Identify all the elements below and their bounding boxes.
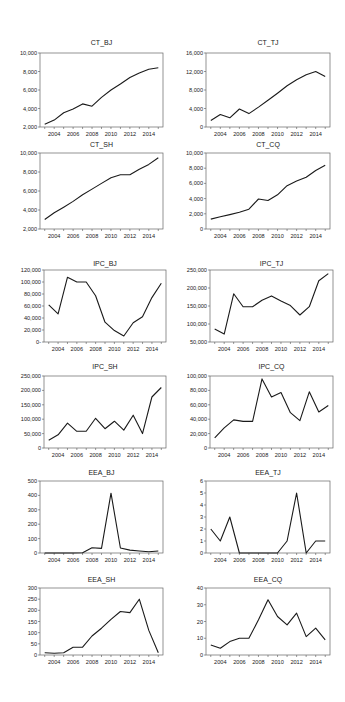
y-tick-label: 100,000	[21, 279, 41, 285]
x-tick-label: 2010	[105, 557, 117, 563]
x-tick-label: 2008	[89, 452, 101, 458]
y-tick-label: 8,000	[189, 87, 203, 93]
x-tick-label: 2014	[309, 233, 321, 239]
x-tick-label: 2004	[48, 131, 60, 137]
x-tick-label: 2010	[271, 233, 283, 239]
series-line-eea-bj	[45, 493, 159, 553]
x-tick-label: 2004	[218, 346, 230, 352]
y-tick-label: 6,000	[189, 180, 203, 186]
chart-grid: CT_BJ2,0004,0006,0008,00010,000200420062…	[0, 0, 345, 702]
x-tick-label: 2006	[233, 131, 245, 137]
plot-frame	[210, 270, 333, 342]
x-tick-label: 2008	[256, 346, 268, 352]
series-line-ct-cq	[211, 165, 325, 219]
chart-ct-tj: CT_TJ04,0008,00012,00016,000200420062008…	[186, 39, 330, 137]
chart-title: EEA_CQ	[254, 576, 283, 584]
y-tick-label: 2,000	[23, 124, 37, 130]
y-tick-label: 2,000	[23, 226, 37, 232]
y-tick-label: 100	[28, 536, 37, 542]
y-tick-label: 20,000	[190, 431, 207, 437]
x-tick-label: 2014	[313, 346, 325, 352]
chart-eea-tj: EEA_TJ0123456200420062008201020122014	[200, 469, 330, 563]
x-tick-label: 2008	[252, 131, 264, 137]
x-tick-label: 2006	[67, 233, 79, 239]
x-tick-label: 2010	[108, 452, 120, 458]
x-tick-label: 2004	[214, 131, 226, 137]
y-tick-label: 20	[197, 619, 203, 625]
x-tick-label: 2012	[127, 346, 139, 352]
series-line-ct-bj	[45, 68, 159, 124]
y-tick-label: 100,000	[21, 416, 41, 422]
y-tick-label: 200	[28, 607, 37, 613]
y-tick-label: 250	[28, 596, 37, 602]
x-tick-label: 2010	[105, 233, 117, 239]
x-tick-label: 2006	[67, 557, 79, 563]
x-tick-label: 2010	[271, 557, 283, 563]
y-tick-label: 0	[200, 652, 203, 658]
x-tick-label: 2010	[105, 131, 117, 137]
chart-ct-bj: CT_BJ2,0004,0006,0008,00010,000200420062…	[20, 39, 163, 137]
y-tick-label: 8,000	[23, 69, 37, 75]
y-tick-label: 150,000	[187, 303, 207, 309]
chart-ct-cq: CT_CQ02,0004,0006,0008,00010,00020042006…	[186, 141, 330, 239]
x-tick-label: 2004	[48, 557, 60, 563]
y-tick-label: 60,000	[24, 303, 41, 309]
y-tick-label: 120,000	[21, 267, 41, 273]
y-tick-label: 250,000	[21, 373, 41, 379]
chart-ipc-sh: IPC_SH050,000100,000150,000200,000250,00…	[21, 363, 166, 458]
x-tick-label: 2006	[233, 557, 245, 563]
x-tick-label: 2014	[143, 659, 155, 665]
x-tick-label: 2010	[275, 346, 287, 352]
y-tick-label: 100	[28, 630, 37, 636]
x-tick-label: 2012	[124, 233, 136, 239]
y-tick-label: 200,000	[187, 285, 207, 291]
x-tick-label: 2006	[67, 659, 79, 665]
y-tick-label: 150,000	[21, 402, 41, 408]
plot-frame	[40, 588, 163, 655]
x-tick-label: 2014	[309, 131, 321, 137]
x-tick-label: 2006	[71, 452, 83, 458]
x-tick-label: 2010	[275, 452, 287, 458]
y-tick-label: 16,000	[186, 50, 203, 56]
y-tick-label: 80,000	[24, 291, 41, 297]
y-tick-label: 1	[200, 538, 203, 544]
x-tick-label: 2012	[124, 131, 136, 137]
y-tick-label: 0	[38, 445, 41, 451]
series-line-eea-sh	[45, 599, 159, 653]
y-tick-label: 10,000	[20, 50, 37, 56]
x-tick-label: 2004	[218, 452, 230, 458]
y-tick-label: 300	[28, 507, 37, 513]
x-tick-label: 2012	[124, 659, 136, 665]
x-tick-label: 2004	[52, 452, 64, 458]
x-tick-label: 2014	[313, 452, 325, 458]
x-tick-label: 2006	[71, 346, 83, 352]
x-tick-label: 2010	[108, 346, 120, 352]
x-tick-label: 2012	[294, 452, 306, 458]
y-tick-label: 40	[197, 585, 203, 591]
x-tick-label: 2004	[48, 233, 60, 239]
chart-ipc-bj: IPC_BJ0-20,00040,00060,00080,000100,0001…	[21, 260, 166, 352]
chart-eea-bj: EEA_BJ0100200300400500200420062008201020…	[28, 469, 163, 563]
y-tick-label: 4,000	[23, 106, 37, 112]
series-line-ipc-sh	[49, 388, 162, 441]
y-tick-label: 30	[197, 602, 203, 608]
x-tick-label: 2008	[252, 233, 264, 239]
y-tick-label: 20,000	[24, 327, 41, 333]
y-tick-label: 4,000	[189, 106, 203, 112]
y-tick-label: 8,000	[189, 165, 203, 171]
x-tick-label: 2006	[233, 233, 245, 239]
y-tick-label: 5	[200, 490, 203, 496]
x-tick-label: 2014	[146, 346, 158, 352]
x-tick-label: 2012	[290, 131, 302, 137]
y-tick-label: 4,000	[23, 207, 37, 213]
series-line-ct-tj	[211, 72, 325, 121]
x-tick-label: 2012	[127, 452, 139, 458]
chart-title: IPC_TJ	[260, 260, 283, 268]
chart-title: EEA_SH	[88, 576, 116, 584]
x-tick-label: 2010	[105, 659, 117, 665]
plot-frame	[206, 153, 330, 229]
series-line-eea-cq	[211, 600, 325, 649]
x-tick-label: 2010	[271, 659, 283, 665]
x-tick-label: 2008	[256, 452, 268, 458]
y-tick-label: 200,000	[21, 387, 41, 393]
